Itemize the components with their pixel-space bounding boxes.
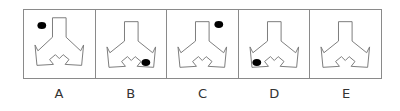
- trident-shape-icon: [24, 10, 95, 78]
- dot-marker-icon: [215, 21, 224, 28]
- option-label-c: C: [167, 86, 239, 101]
- option-panel-b[interactable]: [96, 10, 168, 78]
- option-label-b: B: [95, 86, 167, 101]
- trident-shape-icon: [239, 10, 310, 78]
- option-panel-e[interactable]: [310, 10, 381, 78]
- option-panel-a[interactable]: [24, 10, 96, 78]
- trident-shape-icon: [96, 10, 167, 78]
- trident-shape-icon: [310, 10, 381, 78]
- option-label-a: A: [23, 86, 95, 101]
- option-label-d: D: [238, 86, 310, 101]
- dot-marker-icon: [37, 22, 46, 29]
- dot-marker-icon: [141, 59, 150, 66]
- dot-marker-icon: [252, 59, 261, 66]
- option-panels: [23, 9, 382, 79]
- option-labels: A B C D E: [23, 86, 382, 101]
- trident-shape-icon: [167, 10, 238, 78]
- option-label-e: E: [310, 86, 382, 101]
- option-panel-c[interactable]: [167, 10, 239, 78]
- option-panel-d[interactable]: [239, 10, 311, 78]
